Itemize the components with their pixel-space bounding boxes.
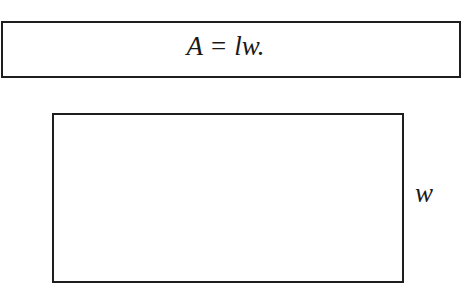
width-label: w bbox=[415, 178, 433, 208]
rectangle-diagram bbox=[52, 113, 404, 283]
area-formula: A = lw. bbox=[0, 26, 451, 66]
